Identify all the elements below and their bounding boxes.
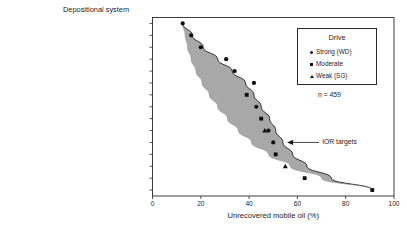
data-point-circle (199, 45, 203, 49)
data-point-square (245, 93, 249, 97)
data-point-square (370, 188, 374, 192)
chart-figure: Depositional system Strandplain/wave-dom… (0, 0, 407, 237)
legend-entry-label: Moderate (316, 60, 343, 67)
x-axis-tick-label: 100 (384, 200, 404, 207)
data-point-triangle (283, 164, 288, 169)
legend-entry-label: Weak (SG) (316, 72, 348, 79)
data-point-circle (254, 105, 258, 109)
x-axis-tick-label: 60 (287, 200, 307, 207)
x-axis-title: Unrecovered mobile oil (%) (153, 212, 395, 220)
data-point-circle (271, 140, 275, 144)
data-point-circle (181, 21, 185, 25)
legend-triangle-icon (307, 72, 316, 79)
x-axis-tick-label: 20 (191, 200, 211, 207)
ior-targets-annotation: IOR targets (322, 138, 357, 145)
legend-circle-icon (307, 48, 316, 55)
x-axis-tick-label: 0 (143, 200, 163, 207)
data-point-circle (252, 81, 256, 85)
legend-entry: Strong (WD) (307, 48, 352, 55)
data-point-square (303, 176, 307, 180)
data-point-circle (233, 69, 237, 73)
legend-marker-glyph (310, 75, 314, 78)
x-axis-tick-label: 80 (336, 200, 356, 207)
annotation-arrow-head (287, 140, 293, 145)
legend-entry-label: Strong (WD) (316, 48, 352, 55)
legend-entry: Weak (SG) (307, 72, 348, 79)
sample-size-label: n = 459 (318, 91, 341, 98)
legend-title: Drive (298, 34, 376, 42)
data-point-circle (224, 57, 228, 61)
legend-entry: Moderate (307, 60, 343, 67)
data-point-circle (189, 33, 193, 37)
legend: Drive Strong (WD)ModerateWeak (SG) (297, 28, 377, 85)
data-point-square (274, 152, 278, 156)
legend-square-icon (307, 60, 316, 67)
legend-marker-glyph (310, 51, 313, 54)
legend-marker-glyph (310, 63, 313, 66)
x-axis-tick-label: 40 (239, 200, 259, 207)
data-point-square (259, 117, 263, 121)
